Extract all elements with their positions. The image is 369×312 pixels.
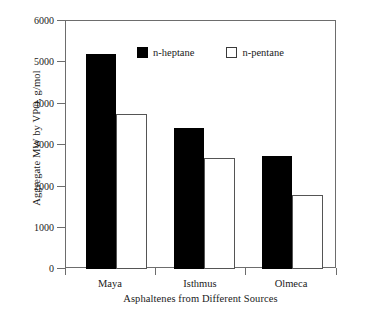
y-tick-mark-1000 xyxy=(57,227,65,228)
y-tick-label-6000: 6000 xyxy=(14,16,54,26)
open-square-icon xyxy=(226,47,237,58)
filled-square-icon xyxy=(137,47,148,58)
bar-maya-n-pentane xyxy=(116,114,147,269)
x-tick-mark-2 xyxy=(245,268,246,275)
bar-isthmus-n-pentane xyxy=(204,158,235,269)
legend-label-n-heptane: n-heptane xyxy=(153,47,194,58)
y-tick-label-5000: 5000 xyxy=(14,57,54,67)
x-tick-mark-left xyxy=(65,268,66,275)
bar-maya-n-heptane xyxy=(86,54,116,269)
bar-isthmus-n-heptane xyxy=(174,128,204,269)
bar-olmeca-n-heptane xyxy=(262,156,292,269)
y-tick-mark-6000 xyxy=(57,20,65,21)
legend-label-n-pentane: n-pentane xyxy=(242,47,283,58)
legend-item-n-heptane: n-heptane xyxy=(137,47,194,58)
x-tick-label-isthmus: Isthmus xyxy=(155,278,245,290)
y-tick-mark-5000 xyxy=(57,61,65,62)
y-tick-label-1000: 1000 xyxy=(14,223,54,233)
y-tick-mark-2000 xyxy=(57,186,65,187)
y-tick-label-0: 0 xyxy=(14,264,54,274)
y-tick-label-4000: 4000 xyxy=(14,99,54,109)
x-tick-label-maya: Maya xyxy=(65,278,155,290)
chart-legend: n-heptane n-pentane xyxy=(137,47,284,58)
x-tick-label-olmeca: Olmeca xyxy=(246,278,336,290)
y-tick-mark-4000 xyxy=(57,103,65,104)
bar-olmeca-n-pentane xyxy=(292,195,323,269)
x-axis-title: Asphaltenes from Different Sources xyxy=(65,293,336,305)
y-tick-mark-0 xyxy=(57,268,65,269)
y-tick-mark-3000 xyxy=(57,144,65,145)
legend-item-n-pentane: n-pentane xyxy=(226,47,283,58)
y-tick-label-3000: 3000 xyxy=(14,140,54,150)
x-tick-mark-right xyxy=(336,268,337,275)
y-tick-label-2000: 2000 xyxy=(14,182,54,192)
bar-chart-figure: Aggregate MW by VPO, g/mol 6000 5000 400… xyxy=(0,0,369,312)
x-tick-mark-1 xyxy=(155,268,156,275)
